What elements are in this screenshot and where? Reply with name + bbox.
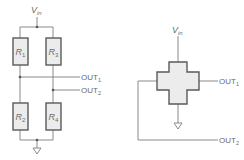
bridge-circuit-diagram: R1 R3 R2 R4 Vin OUT1 OUT2 Vin OUT1 OUT2 <box>0 0 244 160</box>
vin-label-right: Vin <box>172 25 183 36</box>
junction-dot <box>36 139 39 142</box>
out1-label-right: OUT1 <box>219 77 239 87</box>
vin-label-left: Vin <box>31 5 42 16</box>
out2-label-left: OUT2 <box>81 86 101 96</box>
out1-label-left: OUT1 <box>81 73 101 83</box>
junction-dot <box>52 89 55 92</box>
ground-icon <box>33 148 41 154</box>
cross-sensor-element <box>157 62 199 104</box>
junction-dot <box>19 76 22 79</box>
ground-icon <box>174 123 182 129</box>
out2-label-right: OUT2 <box>219 136 239 146</box>
junction-dot <box>36 26 39 29</box>
